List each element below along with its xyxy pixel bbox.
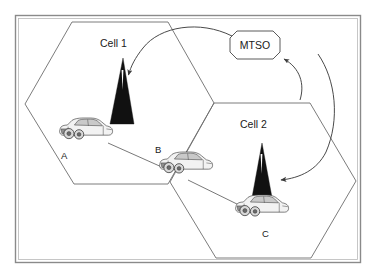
- vehicle-c[interactable]: [236, 195, 289, 216]
- mtso-node[interactable]: MTSO: [230, 31, 280, 59]
- vehicle-a[interactable]: [60, 118, 113, 139]
- cell-2-base-station-tower: [251, 143, 273, 203]
- vehicle-c-label: C: [262, 228, 269, 239]
- vehicle-b-label: B: [155, 144, 161, 155]
- cell-1-base-station-tower: [110, 58, 134, 124]
- mtso-to-tower2-link: [281, 54, 334, 180]
- mtso-label: MTSO: [240, 39, 270, 51]
- tower2-to-mtso-link: [284, 59, 302, 100]
- cell-2-label: Cell 2: [240, 118, 267, 130]
- diagram-canvas: Cell 1 Cell 2 MTSO: [0, 0, 382, 279]
- vehicle-a-label: A: [61, 150, 68, 161]
- mtso-to-tower1-link: [129, 27, 233, 75]
- path-b-to-c: [188, 180, 241, 206]
- cellular-handoff-diagram: Cell 1 Cell 2 MTSO: [0, 0, 382, 279]
- vehicle-b[interactable]: [160, 152, 213, 173]
- diagram-frame-outer: [16, 16, 361, 263]
- cell-1-label: Cell 1: [100, 37, 127, 49]
